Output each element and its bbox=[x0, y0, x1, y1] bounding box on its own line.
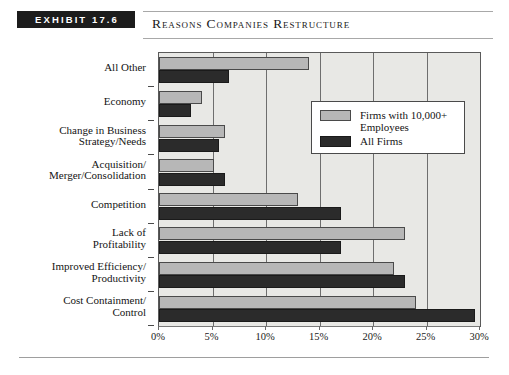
category-tick bbox=[148, 86, 154, 87]
category-label: Change in Business Strategy/Needs bbox=[59, 125, 146, 149]
category-label: Cost Containment/ Control bbox=[63, 295, 146, 319]
bar bbox=[159, 275, 405, 288]
x-axis-tick bbox=[158, 326, 159, 330]
category-tick bbox=[148, 291, 154, 292]
category-label: Economy bbox=[104, 96, 146, 108]
header-rule-bottom bbox=[143, 38, 493, 39]
bar bbox=[159, 104, 191, 117]
x-axis-tick-label: 10% bbox=[255, 331, 274, 342]
category-tick bbox=[148, 325, 154, 326]
category-tick bbox=[148, 223, 154, 224]
legend-entry: All Firms bbox=[320, 135, 402, 147]
category-axis-labels: All OtherEconomyChange in Business Strat… bbox=[0, 52, 154, 325]
x-axis-tick bbox=[319, 326, 320, 330]
bar bbox=[159, 159, 214, 172]
bar bbox=[159, 227, 405, 240]
bar bbox=[159, 70, 229, 83]
legend-label: All Firms bbox=[360, 135, 402, 147]
category-label: Competition bbox=[91, 199, 146, 211]
bar bbox=[159, 262, 394, 275]
category-tick bbox=[148, 257, 154, 258]
exhibit-header: EXHIBIT 17.6 Reasons Companies Restructu… bbox=[0, 0, 509, 44]
legend-entry: Firms with 10,000+ Employees bbox=[320, 109, 447, 133]
x-axis-tick bbox=[479, 326, 480, 330]
category-label: Lack of Profitability bbox=[93, 227, 146, 251]
category-tick bbox=[148, 120, 154, 121]
gridline bbox=[427, 53, 428, 326]
x-axis-tick-label: 25% bbox=[416, 331, 435, 342]
legend-swatch bbox=[320, 110, 351, 121]
x-axis-tick-label: 30% bbox=[469, 331, 488, 342]
x-axis-tick-label: 0% bbox=[151, 331, 165, 342]
chart-legend: Firms with 10,000+ EmployeesAll Firms bbox=[311, 101, 465, 154]
footer-rule bbox=[19, 357, 489, 358]
bar bbox=[159, 57, 309, 70]
category-label: Improved Efficiency/ Productivity bbox=[52, 261, 146, 285]
legend-swatch bbox=[320, 136, 351, 147]
bar bbox=[159, 207, 341, 220]
x-axis-tick bbox=[426, 326, 427, 330]
bar bbox=[159, 193, 298, 206]
legend-label: Firms with 10,000+ Employees bbox=[360, 109, 447, 133]
bar bbox=[159, 241, 341, 254]
x-axis-tick bbox=[212, 326, 213, 330]
bar bbox=[159, 125, 225, 138]
x-axis-tick-label: 15% bbox=[309, 331, 328, 342]
page-title: Reasons Companies Restructure bbox=[152, 16, 350, 32]
bar bbox=[159, 91, 202, 104]
category-label: Acquisition/ Merger/Consolidation bbox=[49, 159, 146, 183]
bar bbox=[159, 309, 475, 322]
chart-plot-area bbox=[158, 52, 481, 327]
bar bbox=[159, 139, 219, 152]
category-tick bbox=[148, 189, 154, 190]
category-label: All Other bbox=[104, 62, 146, 74]
category-tick bbox=[148, 154, 154, 155]
x-axis-tick-label: 20% bbox=[362, 331, 381, 342]
x-axis-tick bbox=[265, 326, 266, 330]
exhibit-number-badge: EXHIBIT 17.6 bbox=[17, 11, 135, 28]
bar bbox=[159, 296, 416, 309]
bar bbox=[159, 173, 225, 186]
x-axis-tick bbox=[372, 326, 373, 330]
x-axis-tick-label: 5% bbox=[205, 331, 219, 342]
header-rule-top bbox=[143, 11, 493, 12]
